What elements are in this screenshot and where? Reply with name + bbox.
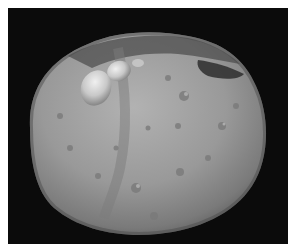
asteroid-body (8, 8, 288, 244)
asteroid-image (8, 8, 288, 244)
image-frame (8, 8, 288, 244)
